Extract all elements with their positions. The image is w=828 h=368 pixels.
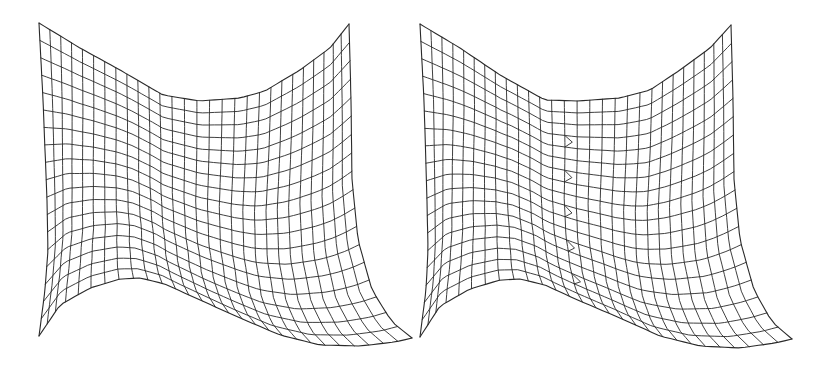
mesh-line-horizontal — [44, 127, 351, 177]
mesh-line-vertical — [138, 80, 148, 280]
mesh-line-vertical — [231, 98, 255, 324]
mesh-line-vertical — [495, 72, 499, 280]
mesh-line-horizontal — [425, 145, 733, 192]
mesh-line-vertical — [289, 74, 326, 345]
mesh-line-horizontal — [46, 159, 352, 206]
mesh-line-vertical — [160, 93, 176, 289]
mesh-line-vertical — [446, 44, 453, 303]
mesh-line-horizontal — [424, 94, 733, 152]
mesh-line-vertical — [472, 58, 475, 289]
mesh-line-vertical — [484, 65, 485, 285]
mesh-line-horizontal — [47, 236, 370, 295]
mesh-line-vertical — [428, 31, 435, 325]
mesh-line-vertical — [55, 36, 63, 312]
mesh-boundary — [420, 24, 731, 101]
mesh-line-vertical — [104, 62, 105, 284]
mesh-right — [420, 24, 792, 348]
mesh-seam-mark — [564, 170, 571, 182]
mesh-line-vertical — [208, 100, 229, 313]
mesh-line-horizontal — [421, 41, 732, 113]
mesh-line-horizontal — [422, 270, 778, 337]
mesh-line-horizontal — [424, 111, 733, 164]
mesh-line-vertical — [311, 60, 354, 346]
figure-canvas — [0, 0, 828, 368]
mesh-left — [39, 23, 412, 346]
mesh-line-horizontal — [427, 237, 751, 295]
mesh-line-horizontal — [45, 144, 352, 192]
mesh-line-vertical — [47, 30, 55, 324]
mesh-boundary — [349, 24, 412, 338]
mesh-boundary — [731, 25, 792, 339]
mesh-line-vertical — [243, 96, 269, 330]
mesh-line-vertical — [703, 52, 749, 347]
mesh-line-horizontal — [42, 75, 351, 138]
mesh-line-vertical — [552, 100, 570, 296]
mesh-line-vertical — [172, 96, 189, 295]
mesh-seam-mark — [565, 135, 573, 147]
mesh-line-vertical — [722, 34, 777, 342]
mesh-line-vertical — [333, 44, 384, 343]
mesh-line-vertical — [624, 96, 650, 331]
mesh-line-vertical — [459, 50, 464, 295]
mesh-line-horizontal — [425, 128, 734, 177]
mesh-line-vertical — [540, 97, 556, 290]
mesh-line-vertical — [78, 49, 83, 294]
mesh-line-vertical — [714, 44, 764, 345]
mesh-figure — [0, 0, 828, 368]
mesh-line-vertical — [255, 93, 283, 336]
mesh-line-vertical — [564, 101, 582, 302]
mesh-line-vertical — [436, 37, 443, 312]
mesh-line-vertical — [91, 56, 94, 288]
mesh-line-horizontal — [426, 160, 734, 207]
mesh-line-vertical — [670, 75, 706, 347]
mesh-line-vertical — [66, 43, 73, 302]
mesh-boundary — [39, 23, 349, 101]
mesh-boundary — [420, 279, 792, 348]
